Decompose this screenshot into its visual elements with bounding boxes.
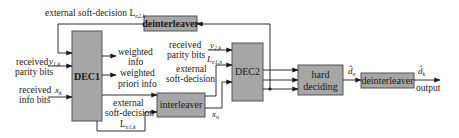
deinterleaver-out-label: deinterleaver bbox=[361, 75, 414, 86]
deinterleaver-top-label: deinterleaver bbox=[142, 18, 199, 29]
le1k-label: Le1,k bbox=[120, 119, 136, 130]
junction-dot bbox=[268, 87, 271, 90]
received-parity-2-l2: parity bits bbox=[167, 50, 206, 60]
turbo-decoder-diagram: DEC1 deinterleaver interleaver DEC2 hard… bbox=[0, 0, 459, 138]
weighted-info-l2: info bbox=[128, 57, 144, 67]
xk-label: xk bbox=[54, 85, 62, 96]
ext-soft-1-l2: soft-decision bbox=[105, 108, 154, 118]
dec1-label: DEC1 bbox=[74, 71, 100, 82]
xn-to-dec2-wire bbox=[205, 82, 232, 108]
received-parity-1-l1: received bbox=[16, 57, 48, 67]
hard-deciding-label-1: hard bbox=[312, 69, 330, 80]
output-label: output bbox=[416, 83, 441, 93]
hard-deciding-block: hard deciding bbox=[298, 65, 343, 95]
dec2-block: DEC2 bbox=[232, 43, 263, 101]
feedback-label: external soft-decision Le2,k bbox=[45, 8, 145, 19]
hard-deciding-label-2: deciding bbox=[303, 81, 337, 92]
weighted-priori-l2: priori info bbox=[118, 79, 157, 89]
ext-soft-1-l1: external bbox=[113, 98, 144, 108]
received-parity-2-l1: received bbox=[169, 40, 201, 50]
weighted-info-l1: weighted bbox=[118, 47, 153, 57]
interleaver-label: interleaver bbox=[160, 99, 203, 110]
dec1-block: DEC1 bbox=[72, 31, 102, 121]
interleaver-block: interleaver bbox=[157, 93, 205, 117]
y2k-label: y2,k bbox=[209, 40, 222, 51]
y1k-label: y1,k bbox=[48, 56, 61, 67]
deinterleaver-out-block: deinterleaver bbox=[361, 73, 414, 88]
dn-label: d̂n bbox=[348, 65, 356, 76]
deinterleaver-top-block: deinterleaver bbox=[142, 16, 199, 31]
xn-label: xn bbox=[211, 109, 219, 120]
received-info-l1: received bbox=[19, 85, 51, 95]
received-info-l2: info bits bbox=[19, 95, 51, 105]
dec2-label: DEC2 bbox=[235, 66, 260, 77]
ext-soft-2-l1: external bbox=[176, 64, 207, 74]
dk-label: d̂k bbox=[418, 65, 426, 76]
ext-soft-2-l2: soft-decision bbox=[166, 74, 215, 84]
le1n-label: Le1,n bbox=[206, 54, 222, 65]
weighted-priori-l1: weighted bbox=[120, 68, 155, 78]
received-parity-1-l2: parity bits bbox=[15, 67, 54, 77]
